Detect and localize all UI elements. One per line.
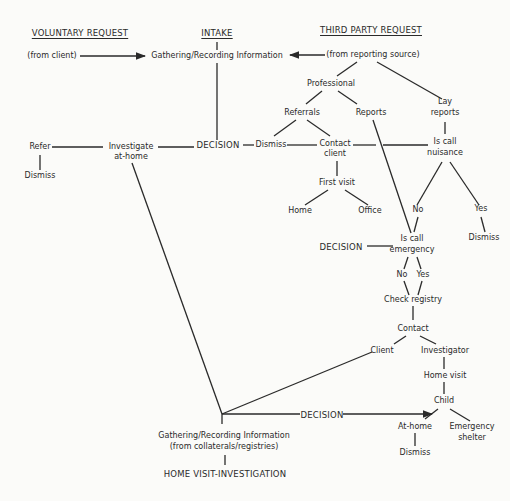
node-at-home: At-home <box>398 422 432 432</box>
node-decision-1: DECISION <box>197 140 240 150</box>
node-shelter-label: shelter <box>458 433 486 443</box>
header-intake: INTAKE <box>201 28 232 38</box>
node-office: Office <box>358 206 381 216</box>
node-contact: Contact <box>397 324 428 334</box>
node-reports: Reports <box>356 108 387 118</box>
header-voluntary-request: VOLUNTARY REQUEST <box>32 28 128 38</box>
node-from-reporting-source: (from reporting source) <box>326 50 419 60</box>
node-nuisance-dismiss: Dismiss <box>469 233 500 243</box>
node-home: Home <box>288 206 312 216</box>
node-at-home-investigate: at-home <box>114 152 148 162</box>
node-decision-2: DECISION <box>320 242 363 252</box>
node-client-label: client <box>324 149 346 159</box>
node-dismiss-mid: Dismiss <box>256 140 287 150</box>
node-emergency-label: emergency <box>390 245 435 255</box>
node-emergency-shelter: Emergency <box>449 422 494 432</box>
node-investigate: Investigate <box>109 142 154 152</box>
node-gathering-recording-top: Gathering/Recording Information <box>151 51 282 61</box>
node-home-visit: Home visit <box>424 371 467 381</box>
node-lay: Lay <box>438 97 452 107</box>
node-refer: Refer <box>29 142 50 152</box>
node-emergency-no: No <box>397 270 408 280</box>
node-nuisance-no: No <box>413 205 424 215</box>
node-reports-lay: reports <box>431 108 460 118</box>
node-referrals: Referrals <box>284 108 320 118</box>
node-from-client: (from client) <box>27 51 76 61</box>
node-at-home-dismiss: Dismiss <box>400 448 431 458</box>
node-first-visit: First visit <box>319 178 355 188</box>
node-is-call-nuisance: Is call <box>434 137 457 147</box>
node-from-collaterals: (from collaterals/registries) <box>170 442 279 452</box>
node-contact-client: Contact <box>319 139 350 149</box>
node-investigator: Investigator <box>421 346 469 356</box>
node-home-visit-investigation: HOME VISIT-INVESTIGATION <box>164 469 287 479</box>
node-nuisance-yes: Yes <box>475 204 488 214</box>
node-emergency-yes: Yes <box>417 270 430 280</box>
node-child: Child <box>434 396 454 406</box>
node-gathering-recording-bottom: Gathering/Recording Information <box>158 431 289 441</box>
node-nuisance-label: nuisance <box>427 148 463 158</box>
node-client: Client <box>370 346 393 356</box>
header-third-party-request: THIRD PARTY REQUEST <box>320 25 422 35</box>
node-decision-3: DECISION <box>301 410 344 420</box>
node-refer-dismiss: Dismiss <box>25 171 56 181</box>
node-check-registry: Check registry <box>384 295 442 305</box>
node-is-call-emergency: Is call <box>401 234 424 244</box>
node-professional: Professional <box>307 79 355 89</box>
